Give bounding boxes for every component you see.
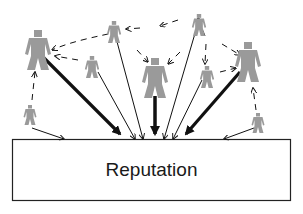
- person-icon: [192, 14, 206, 36]
- rating-arrows: [32, 30, 254, 139]
- person-icon: [252, 113, 265, 133]
- person-icon: [200, 66, 214, 88]
- person-icon: [85, 56, 99, 78]
- peer-arrows: [32, 18, 256, 110]
- person-icon: [142, 58, 168, 98]
- reputation-label: Reputation: [12, 139, 291, 200]
- person-icon: [107, 21, 121, 43]
- person-icon: [24, 105, 37, 125]
- person-icon: [235, 42, 261, 82]
- person-icon: [25, 30, 51, 70]
- strong-rating-arrows: [44, 58, 240, 134]
